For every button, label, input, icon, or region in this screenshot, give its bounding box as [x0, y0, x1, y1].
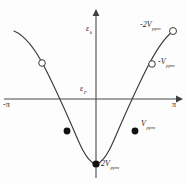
- x-axis-group: [4, 96, 183, 103]
- marker-filled-left: [64, 128, 71, 135]
- dispersion-curve: [14, 31, 172, 164]
- annotation-2v-ppm-value: 2V: [101, 159, 110, 168]
- annotation-minus-v-ppm-value: -V: [158, 57, 166, 66]
- marker-filled-v-ppm: [132, 128, 139, 135]
- y-axis-arrowhead: [93, 9, 100, 16]
- fermi-label-subscript: F: [84, 90, 87, 95]
- annotation-v-ppm: Vppm: [141, 120, 155, 128]
- marker-open-left: [39, 60, 46, 67]
- fermi-level-label: εF: [80, 85, 86, 93]
- marker-open-minus-2v-ppm: [170, 28, 177, 35]
- annotation-2v-ppm-subscript: ppm: [110, 165, 119, 170]
- y-axis-label: εk: [86, 25, 91, 33]
- marker-open-minus-v-ppm: [149, 61, 156, 68]
- annotation-minus-2v-ppm-value: -2V: [140, 20, 152, 29]
- y-axis-group: [93, 9, 100, 178]
- y-axis-label-symbol: ε: [86, 24, 89, 33]
- annotation-2v-ppm: 2Vppm: [101, 160, 119, 168]
- annotation-minus-2v-ppm: -2Vppm: [140, 21, 160, 29]
- annotation-v-ppm-subscript: ppm: [146, 125, 155, 130]
- x-axis-max-label: π: [172, 101, 176, 109]
- x-axis-min-label: -π: [3, 101, 10, 109]
- annotation-minus-v-ppm: -Vppm: [158, 58, 174, 66]
- annotation-minus-v-ppm-subscript: ppm: [166, 63, 175, 68]
- marker-filled-2v-ppm: [92, 160, 99, 167]
- fermi-label-symbol: ε: [80, 84, 83, 93]
- energy-band-figure: -π π εk εF -2Vppm -Vppm Vppm 2Vppm: [0, 0, 186, 185]
- y-axis-label-subscript: k: [90, 30, 92, 35]
- x-axis-arrowhead: [176, 96, 183, 103]
- annotation-minus-2v-ppm-subscript: ppm: [152, 26, 161, 31]
